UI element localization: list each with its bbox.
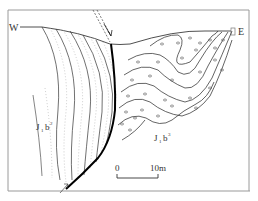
- svg-text:1: 1: [159, 139, 162, 144]
- east-label: E: [238, 26, 244, 37]
- svg-text:J: J: [36, 122, 40, 132]
- left-unit-bedding: [33, 27, 116, 182]
- svg-text:J: J: [154, 133, 158, 143]
- svg-text:1: 1: [41, 128, 44, 133]
- frame: [8, 10, 250, 191]
- unit-label-right: J 1 b 3: [154, 132, 171, 144]
- svg-text:2: 2: [50, 121, 53, 126]
- scale-end-label: 10m: [150, 163, 166, 173]
- inferred-fault-arrow: [93, 10, 112, 42]
- svg-text:3: 3: [168, 132, 171, 137]
- unit-label-left: J 1 b 2: [36, 121, 53, 133]
- west-label: W: [9, 22, 19, 33]
- ground-surface: [20, 27, 235, 45]
- scale-bar: 0 10m: [115, 163, 166, 178]
- right-unit-bedding: [118, 31, 232, 140]
- scale-start-label: 0: [115, 163, 120, 173]
- geological-cross-section: W E J 1 b 2 J 1 b 3 0 10m: [0, 0, 258, 201]
